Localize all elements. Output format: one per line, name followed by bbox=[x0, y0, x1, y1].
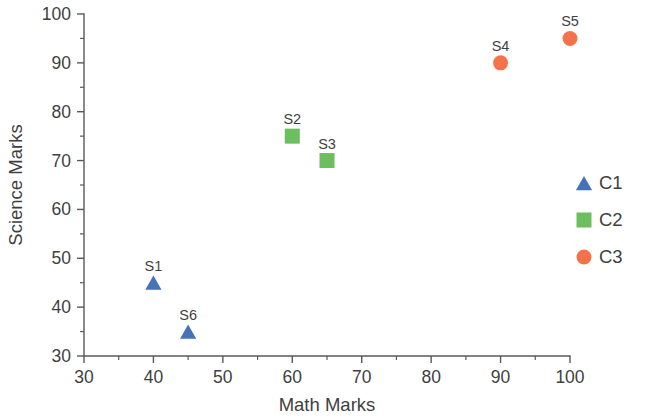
x-tick-label: 80 bbox=[421, 367, 441, 387]
y-tick-label: 40 bbox=[52, 297, 72, 317]
y-tick-label: 100 bbox=[42, 4, 71, 24]
data-point-s5 bbox=[563, 31, 578, 46]
data-point-label: S4 bbox=[492, 38, 510, 54]
legend-marker-square-icon bbox=[577, 213, 592, 228]
chart-canvas: 3040506070809010030405060708090100 S1S6S… bbox=[0, 0, 651, 419]
x-axis-title: Math Marks bbox=[279, 394, 376, 415]
legend-item-c3[interactable]: C3 bbox=[577, 246, 623, 267]
data-point-s6 bbox=[180, 324, 196, 338]
data-points bbox=[145, 31, 577, 339]
data-point-s3 bbox=[320, 153, 335, 168]
x-tick-label: 70 bbox=[352, 367, 372, 387]
y-tick-label: 50 bbox=[52, 248, 72, 268]
data-point-s4 bbox=[493, 55, 508, 70]
legend-marker-circle-icon bbox=[577, 250, 592, 265]
y-tick-label: 80 bbox=[52, 102, 72, 122]
data-point-label: S5 bbox=[561, 13, 579, 29]
data-point-s1 bbox=[145, 276, 161, 290]
y-tick-label: 70 bbox=[52, 151, 72, 171]
data-point-label: S6 bbox=[179, 307, 197, 323]
x-tick-label: 50 bbox=[213, 367, 233, 387]
y-tick-label: 90 bbox=[52, 53, 72, 73]
legend-label: C2 bbox=[599, 209, 623, 230]
data-point-labels: S1S6S2S3S4S5 bbox=[145, 13, 579, 322]
chart-legend[interactable]: C1C2C3 bbox=[576, 172, 623, 267]
data-point-label: S2 bbox=[283, 111, 301, 127]
scatter-chart: 3040506070809010030405060708090100 S1S6S… bbox=[0, 0, 651, 419]
x-tick-label: 30 bbox=[74, 367, 94, 387]
data-point-s2 bbox=[285, 129, 300, 144]
y-tick-label: 60 bbox=[52, 199, 72, 219]
x-tick-label: 40 bbox=[144, 367, 164, 387]
legend-marker-triangle-icon bbox=[576, 176, 592, 190]
legend-item-c2[interactable]: C2 bbox=[577, 209, 623, 230]
legend-label: C1 bbox=[599, 172, 623, 193]
x-tick-label: 90 bbox=[491, 367, 511, 387]
legend-item-c1[interactable]: C1 bbox=[576, 172, 623, 193]
data-point-label: S1 bbox=[145, 258, 163, 274]
y-tick-label: 30 bbox=[52, 346, 72, 366]
data-point-label: S3 bbox=[318, 136, 336, 152]
y-axis-title: Science Marks bbox=[5, 124, 26, 245]
legend-label: C3 bbox=[599, 246, 623, 267]
x-tick-label: 60 bbox=[283, 367, 303, 387]
x-tick-label: 100 bbox=[555, 367, 584, 387]
